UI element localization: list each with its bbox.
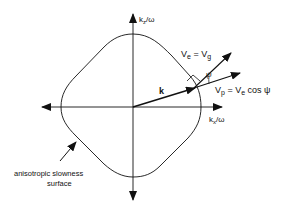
vp-label: Vp = Ve cos ψ [215,85,271,97]
k-vector-label: k [159,86,165,96]
kz-axis-label: kz/ω [139,15,154,25]
ve-vg-label: Ve = Vg [181,49,211,61]
slowness-surface-curve [61,34,201,177]
annotation-line-1: anisotropic slowness [14,169,83,178]
psi-label: ψ [206,70,212,79]
kx-axis-label: kx/ω [209,115,224,125]
slowness-surface-diagram: kz/ω kx/ω k Ve = Vg ψ Vp = Ve cos ψ anis… [0,0,290,209]
annotation-pointer-arrow [60,142,76,161]
annotation-line-2: surface [47,179,72,188]
